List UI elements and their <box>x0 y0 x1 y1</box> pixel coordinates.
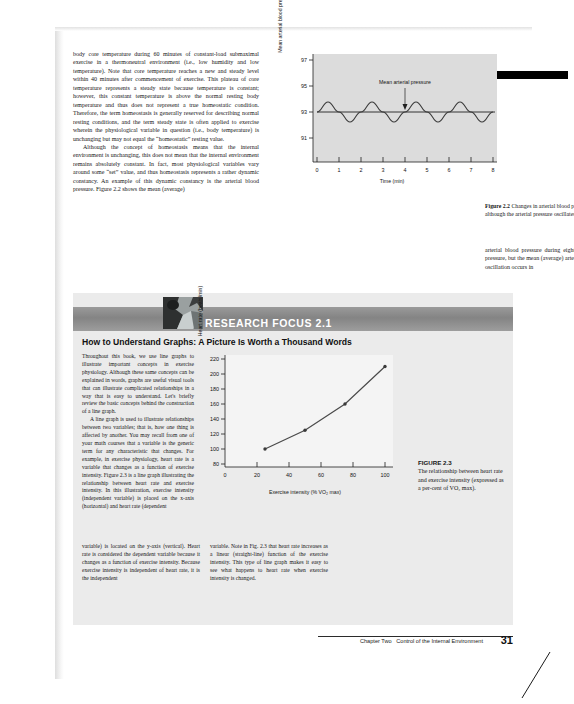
svg-text:60: 60 <box>318 472 324 478</box>
figure-2-2-y-axis-label: Mean arterial blood pressure (mm Hg) <box>277 0 287 64</box>
figure-2-3-caption-text: The relationship between heart rate and … <box>418 467 504 492</box>
annotation-pointer-line <box>520 650 560 700</box>
svg-text:5: 5 <box>426 167 429 173</box>
page-number: 31 <box>501 634 513 646</box>
svg-text:200: 200 <box>210 371 219 377</box>
research-focus-title: RESEARCH FOCUS 2.1 <box>205 317 332 329</box>
svg-text:2: 2 <box>360 167 363 173</box>
footer-chapter-title: Control of the Internal Environment <box>396 638 483 644</box>
left-text-column: body core temperature during 60 minutes … <box>73 50 259 194</box>
svg-text:1: 1 <box>338 167 341 173</box>
page-footer: Chapter Two Control of the Internal Envi… <box>73 636 513 652</box>
svg-text:160: 160 <box>210 401 219 407</box>
footer-rule <box>318 636 513 637</box>
figure-2-2-x-axis-label: Time (min) <box>287 178 497 184</box>
rf-paragraph-2: A line graph is used to illustrate relat… <box>82 416 194 511</box>
figure-2-2-caption-label: Figure 2.2 <box>485 203 510 209</box>
svg-text:0: 0 <box>316 167 319 173</box>
svg-text:95: 95 <box>301 83 307 89</box>
research-focus-bottom-columns: variable) is located on the y-axis (vert… <box>82 543 506 613</box>
svg-text:97: 97 <box>301 57 307 63</box>
svg-text:40: 40 <box>286 472 292 478</box>
research-focus-box: RESEARCH FOCUS 2.1 How to Understand Gra… <box>73 293 513 625</box>
svg-text:220: 220 <box>210 356 219 362</box>
svg-text:100: 100 <box>210 446 219 452</box>
figure-2-3-caption-title: FIGURE 2.3 <box>418 459 504 467</box>
svg-text:0: 0 <box>224 472 227 478</box>
svg-text:3: 3 <box>382 167 385 173</box>
footer-chapter-text: Chapter Two Control of the Internal Envi… <box>360 638 483 644</box>
rf-bottom-column-2: variable. Note in Fig. 2.3 that heart ra… <box>210 543 328 583</box>
figure-2-3-plot: 220 200 180 160 140 120 100 80 0 2 <box>195 351 405 493</box>
svg-text:93: 93 <box>301 109 307 115</box>
svg-text:6: 6 <box>448 167 451 173</box>
research-focus-heading: How to Understand Graphs: A Picture Is W… <box>82 337 352 347</box>
svg-text:8: 8 <box>492 167 495 173</box>
svg-text:120: 120 <box>210 431 219 437</box>
top-content-block: body core temperature during 60 minutes … <box>73 50 513 282</box>
svg-text:20: 20 <box>254 472 260 478</box>
svg-text:4: 4 <box>404 167 407 173</box>
rf-paragraph-1: Throughout this book, we use line graphs… <box>82 353 194 416</box>
figure-2-3: Heart rate (beats/min) 220 200 180 160 1… <box>195 351 405 501</box>
right-text-column: arterial blood pressure during eight min… <box>485 246 574 271</box>
svg-text:80: 80 <box>213 461 219 467</box>
figure-2-3-x-axis-label: Exercise intensity (% VO₂ max) <box>205 489 405 495</box>
paragraph-homeostasis: Although the concept of homeostasis mean… <box>73 143 259 194</box>
figure-2-2-caption: Figure 2.2 Changes in arterial blood pre… <box>485 202 574 218</box>
svg-text:7: 7 <box>470 167 473 173</box>
footer-chapter-label: Chapter Two <box>360 638 392 644</box>
svg-text:140: 140 <box>210 416 219 422</box>
research-focus-column-1: Throughout this book, we use line graphs… <box>82 353 194 511</box>
page-left-edge-shadow <box>55 27 64 679</box>
figure-2-3-caption: FIGURE 2.3 The relationship between hear… <box>418 459 504 493</box>
page-top-edge-shadow <box>55 27 532 31</box>
figure-2-2-annotation-label: Mean arterial pressure <box>379 79 431 85</box>
rf-bottom-column-1: variable) is located on the y-axis (vert… <box>82 543 200 583</box>
svg-text:80: 80 <box>350 472 356 478</box>
svg-text:180: 180 <box>210 386 219 392</box>
svg-text:100: 100 <box>381 472 390 478</box>
figure-2-2: Mean arterial blood pressure (mm Hg) 97 … <box>279 50 503 193</box>
figure-2-3-y-axis-label: Heart rate (beats/min) <box>197 255 207 367</box>
figure-2-2-plot: 97 95 93 91 0 1 2 3 <box>287 50 503 180</box>
paragraph-continuation: body core temperature during 60 minutes … <box>73 50 259 143</box>
svg-text:91: 91 <box>301 135 307 141</box>
